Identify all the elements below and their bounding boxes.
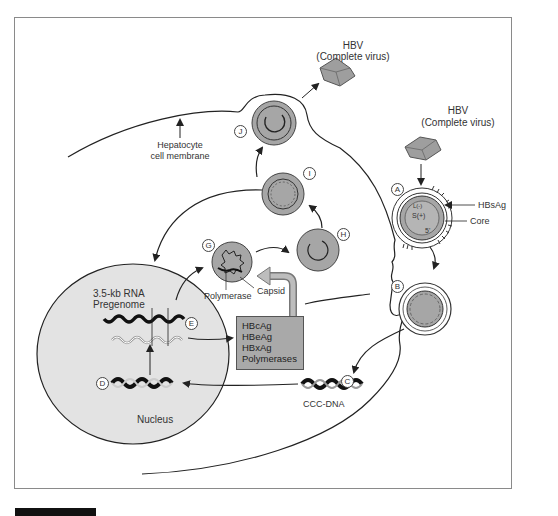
capsid-g [212,242,252,282]
protein-hbcag: HBcAg [237,317,303,331]
hbv-virion-top [320,58,355,86]
particle-j [252,101,296,145]
step-e-marker: E [185,317,198,330]
step-g-marker: G [202,239,215,252]
core-plus-label: S(+) [412,211,425,221]
protein-hbxag: HBxAg [237,342,303,353]
protein-hbeag: HBeAg [237,331,303,342]
membrane-label-2: cell membrane [140,151,220,161]
hbsag-label: HBsAg [478,200,506,210]
step-a-marker: A [391,183,404,196]
capsid-label: Capsid [257,286,285,296]
rna-label-1: 3.5-kb RNA [93,289,145,299]
nucleus-label: Nucleus [137,415,173,425]
capsid-i [262,173,304,215]
cccdna-label: CCC-DNA [303,399,345,409]
core-minus-label: L(-) [413,201,422,211]
step-b-marker: B [391,280,404,293]
hbv-top-label: HBV [333,41,373,51]
hbv-virion-right [405,137,441,160]
step-i-marker: I [303,167,316,180]
step-j-marker: J [234,125,247,138]
particle-b [399,283,451,335]
step-c-marker: C [341,375,354,388]
core-label: Core [470,216,490,226]
protein-polymerases: Polymerases [237,353,303,364]
viral-proteins-box: HBcAg HBeAg HBxAg Polymerases [236,316,304,370]
capsid-h [297,229,339,271]
hbv-right-sublabel: (Complete virus) [415,118,501,128]
polymerase-label: Polymerase [204,291,252,301]
hbv-right-label: HBV [438,106,478,116]
diagram-canvas [0,0,558,516]
step-d-marker: D [96,377,109,390]
step-h-marker: H [337,228,350,241]
core-5prime-label: 5' [425,226,430,236]
hbv-top-sublabel: (Complete virus) [310,52,396,62]
rna-label-2: Pregenome [93,300,145,310]
membrane-label-1: Hepatocyte [140,140,220,150]
